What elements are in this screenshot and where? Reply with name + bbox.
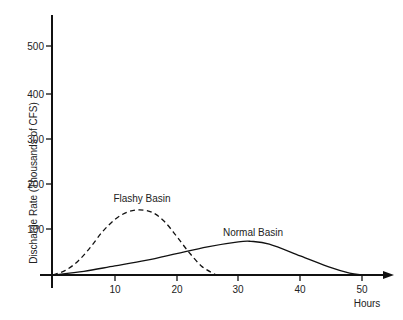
x-tick-label: 20 bbox=[171, 284, 183, 295]
x-tick-label: 50 bbox=[356, 284, 368, 295]
x-tick-label: 30 bbox=[232, 284, 244, 295]
hydrograph-chart: 500 400 300 200 100 10 20 30 40 50 Hours… bbox=[0, 0, 403, 320]
y-tick-label: 400 bbox=[27, 89, 44, 100]
x-axis-title: Hours bbox=[354, 298, 381, 309]
flashy-basin-label: Flashy Basin bbox=[113, 193, 170, 204]
x-axis-arrow-icon bbox=[383, 271, 394, 279]
normal-basin-label: Normal Basin bbox=[223, 227, 283, 238]
y-tick-label: 500 bbox=[27, 41, 44, 52]
flashy-basin-curve bbox=[53, 210, 217, 275]
y-axis-title: Discharge Rate (Thousands of CFS) bbox=[28, 102, 39, 264]
x-tick-label: 40 bbox=[294, 284, 306, 295]
x-tick-label: 10 bbox=[109, 284, 121, 295]
